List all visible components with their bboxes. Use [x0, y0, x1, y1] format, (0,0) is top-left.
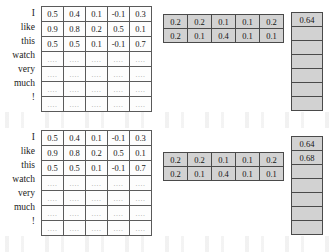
table-row	[292, 97, 323, 111]
table-row	[292, 179, 323, 193]
table-row	[292, 55, 323, 69]
embedding-cell-ellipsis: ....	[64, 67, 86, 82]
embedding-cell: 0.1	[86, 131, 108, 146]
embedding-cell: 0.8	[64, 22, 86, 37]
word-label: very	[0, 186, 38, 200]
word-label: I	[0, 130, 38, 144]
word-label: watch	[0, 172, 38, 186]
output-cell	[292, 55, 323, 69]
embedding-cell: 0.7	[130, 161, 152, 176]
word-label: this	[0, 158, 38, 172]
output-cell	[292, 179, 323, 193]
table-row: .... .... .... .... ....	[42, 191, 152, 206]
attention-cell: 0.2	[188, 15, 212, 29]
output-cell: 0.64	[292, 13, 323, 27]
attention-panel-bottom: I like this watch very much ! 0.5 0.4 0.…	[0, 130, 330, 240]
embedding-cell-ellipsis: ....	[108, 221, 130, 236]
table-row: 0.2 0.2 0.1 0.1 0.2	[164, 153, 284, 167]
embedding-cell-ellipsis: ....	[86, 206, 108, 221]
attention-weight-grid-top: 0.2 0.2 0.1 0.1 0.2 0.2 0.1 0.4 0.1 0.1	[163, 14, 284, 43]
word-label: watch	[0, 48, 38, 62]
output-cell	[292, 207, 323, 221]
attention-cell: 0.1	[188, 29, 212, 43]
table-row: .... .... .... .... ....	[42, 206, 152, 221]
output-cell	[292, 41, 323, 55]
output-cell	[292, 193, 323, 207]
word-label: very	[0, 62, 38, 76]
attention-cell: 0.4	[212, 167, 236, 181]
attention-cell: 0.1	[236, 167, 260, 181]
output-cell: 0.68	[292, 151, 323, 165]
embedding-cell: 0.9	[42, 146, 64, 161]
word-label: this	[0, 34, 38, 48]
embedding-cell-ellipsis: ....	[42, 191, 64, 206]
table-row: .... .... .... .... ....	[42, 176, 152, 191]
embedding-cell-ellipsis: ....	[130, 206, 152, 221]
embedding-cell-ellipsis: ....	[64, 176, 86, 191]
embedding-cell-ellipsis: ....	[42, 221, 64, 236]
table-row: 0.5 0.5 0.1 -0.1 0.7	[42, 161, 152, 176]
embedding-cell: 0.3	[130, 131, 152, 146]
embedding-cell-ellipsis: ....	[42, 82, 64, 97]
table-row	[292, 69, 323, 83]
embedding-matrix-top: 0.5 0.4 0.1 -0.1 0.3 0.9 0.8 0.2 0.5 0.1…	[41, 6, 152, 112]
embedding-cell-ellipsis: ....	[64, 82, 86, 97]
word-label: !	[0, 214, 38, 228]
table-row: 0.5 0.5 0.1 -0.1 0.7	[42, 37, 152, 52]
embedding-cell-ellipsis: ....	[42, 52, 64, 67]
embedding-cell-ellipsis: ....	[130, 97, 152, 112]
table-row: 0.64	[292, 13, 323, 27]
attention-cell: 0.1	[212, 153, 236, 167]
word-label: much	[0, 200, 38, 214]
embedding-cell-ellipsis: ....	[64, 97, 86, 112]
embedding-cell-ellipsis: ....	[108, 82, 130, 97]
embedding-cell-ellipsis: ....	[108, 97, 130, 112]
attention-cell: 0.2	[164, 153, 188, 167]
table-row	[292, 83, 323, 97]
attention-cell: 0.1	[260, 167, 284, 181]
embedding-cell-ellipsis: ....	[108, 67, 130, 82]
output-cell: 0.64	[292, 137, 323, 151]
word-label-column-top: I like this watch very much !	[0, 6, 38, 104]
word-label: much	[0, 76, 38, 90]
attention-weight-grid-bottom: 0.2 0.2 0.1 0.1 0.2 0.2 0.1 0.4 0.1 0.1	[163, 152, 284, 181]
embedding-cell: 0.1	[86, 161, 108, 176]
embedding-cell-ellipsis: ....	[42, 176, 64, 191]
table-row	[292, 193, 323, 207]
word-label: !	[0, 90, 38, 104]
attention-cell: 0.1	[260, 29, 284, 43]
embedding-cell-ellipsis: ....	[130, 191, 152, 206]
attention-cell: 0.1	[236, 29, 260, 43]
embedding-cell-ellipsis: ....	[130, 176, 152, 191]
embedding-cell-ellipsis: ....	[108, 176, 130, 191]
embedding-cell: 0.5	[42, 161, 64, 176]
table-row: 0.9 0.8 0.2 0.5 0.1	[42, 22, 152, 37]
embedding-cell-ellipsis: ....	[130, 52, 152, 67]
embedding-cell: -0.1	[108, 7, 130, 22]
word-label: I	[0, 6, 38, 20]
table-row	[292, 207, 323, 221]
embedding-cell-ellipsis: ....	[86, 82, 108, 97]
attention-cell: 0.2	[260, 15, 284, 29]
word-label-column-bottom: I like this watch very much !	[0, 130, 38, 228]
embedding-cell: 0.3	[130, 7, 152, 22]
embedding-cell-ellipsis: ....	[64, 52, 86, 67]
embedding-cell: 0.9	[42, 22, 64, 37]
embedding-cell: 0.1	[86, 37, 108, 52]
embedding-cell-ellipsis: ....	[42, 206, 64, 221]
embedding-cell: 0.1	[130, 146, 152, 161]
embedding-cell-ellipsis: ....	[86, 67, 108, 82]
table-row	[292, 221, 323, 235]
embedding-cell-ellipsis: ....	[108, 52, 130, 67]
attention-cell: 0.1	[236, 15, 260, 29]
table-row: .... .... .... .... ....	[42, 82, 152, 97]
embedding-cell-ellipsis: ....	[42, 97, 64, 112]
embedding-cell: 0.2	[86, 146, 108, 161]
embedding-cell: 0.7	[130, 37, 152, 52]
output-cell	[292, 165, 323, 179]
embedding-cell: 0.4	[64, 131, 86, 146]
embedding-cell-ellipsis: ....	[130, 82, 152, 97]
attention-panel-top: I like this watch very much ! 0.5 0.4 0.…	[0, 6, 330, 116]
embedding-cell-ellipsis: ....	[86, 221, 108, 236]
embedding-cell-ellipsis: ....	[130, 67, 152, 82]
